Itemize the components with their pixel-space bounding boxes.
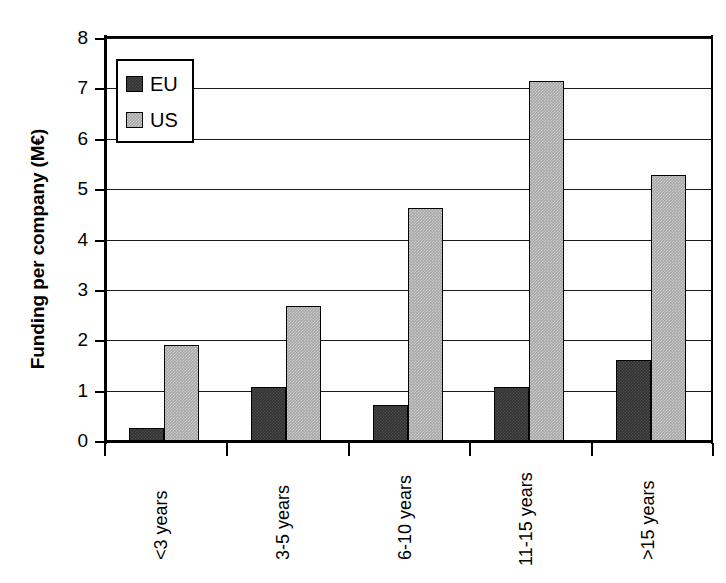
- bar-eu-4: [616, 360, 651, 441]
- y-tick-label-2: 2: [52, 329, 88, 351]
- x-tick-label-2: 6-10 years: [395, 475, 416, 560]
- gridline-7: [104, 88, 713, 89]
- plot-top-border: [104, 36, 713, 38]
- x-tick-label-1: 3-5 years: [273, 485, 294, 560]
- bar-us-0: [164, 345, 199, 441]
- bar-us-2: [408, 208, 443, 441]
- y-axis-title: Funding per company (M€): [27, 39, 49, 459]
- bar-chart-figure: Funding per company (M€) 8 7 6 5 4 3 2 1…: [0, 0, 726, 583]
- bar-eu-3: [494, 387, 529, 441]
- gridline-8: [104, 38, 713, 39]
- x-tick-label-3: 11-15 years: [516, 472, 537, 566]
- bar-us-3: [529, 81, 564, 441]
- bar-us-1: [286, 306, 321, 441]
- y-tick-label-7: 7: [52, 77, 88, 99]
- legend-label-us: US: [150, 109, 178, 131]
- x-tick-mark-1: [226, 443, 228, 456]
- x-tick-mark-2: [348, 443, 350, 456]
- x-tick-label-4: >15 years: [638, 480, 659, 560]
- y-tick-label-8: 8: [52, 27, 88, 49]
- bar-us-4: [651, 175, 686, 441]
- x-tick-mark-3: [469, 443, 471, 456]
- y-tick-mark-5: [95, 189, 106, 191]
- us-swatch-icon: [126, 112, 143, 128]
- y-tick-mark-7: [95, 88, 106, 90]
- y-tick-label-3: 3: [52, 279, 88, 301]
- bar-eu-1: [251, 387, 286, 441]
- x-tick-mark-5: [712, 443, 714, 456]
- y-tick-mark-2: [95, 340, 106, 342]
- eu-swatch-icon: [126, 76, 143, 92]
- bar-eu-2: [373, 405, 408, 441]
- y-tick-mark-3: [95, 290, 106, 292]
- y-tick-mark-8: [95, 38, 106, 40]
- y-tick-label-1: 1: [52, 380, 88, 402]
- x-tick-label-0: <3 years: [151, 490, 172, 560]
- y-tick-label-0: 0: [52, 430, 88, 452]
- y-tick-label-5: 5: [52, 178, 88, 200]
- y-tick-label-6: 6: [52, 128, 88, 150]
- y-tick-mark-6: [95, 139, 106, 141]
- chart-legend: EU US: [116, 59, 194, 143]
- x-tick-mark-4: [591, 443, 593, 456]
- plot-right-border: [711, 35, 713, 444]
- y-tick-label-4: 4: [52, 229, 88, 251]
- y-tick-mark-4: [95, 240, 106, 242]
- y-tick-mark-1: [95, 391, 106, 393]
- gridline-5: [104, 189, 713, 190]
- gridline-6: [104, 139, 713, 140]
- x-tick-mark-0: [104, 443, 106, 456]
- x-axis-line: [104, 440, 713, 443]
- legend-label-eu: EU: [150, 73, 178, 95]
